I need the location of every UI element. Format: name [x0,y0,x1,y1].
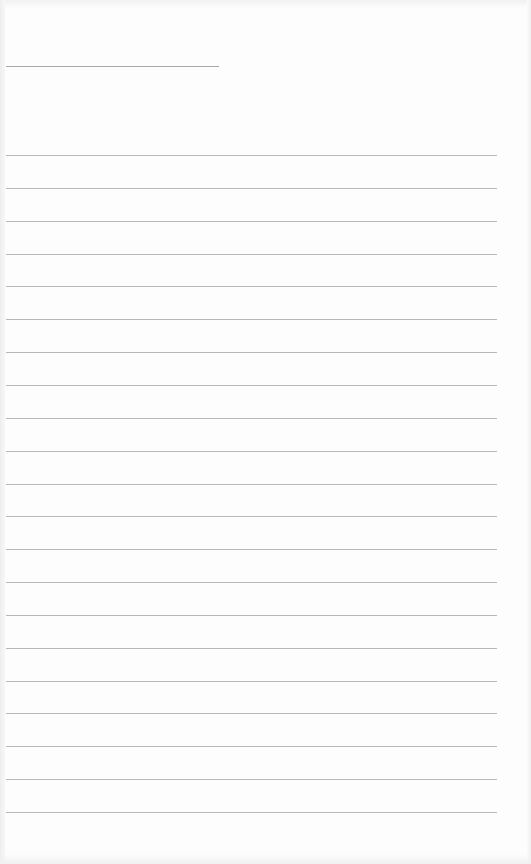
right-page-edge [527,0,531,864]
top-edge-shadow [0,0,531,8]
rule-line [6,648,497,649]
rule-line [6,352,497,353]
rule-line [6,779,497,780]
rule-line [6,254,497,255]
rule-line [6,188,497,189]
rule-line [6,713,497,714]
rule-line [6,221,497,222]
rule-line [6,812,497,813]
rule-line [6,746,497,747]
rule-line [6,549,497,550]
rule-line [6,451,497,452]
rule-line [6,582,497,583]
rule-line [6,484,497,485]
rule-line [6,418,497,419]
binding-edge [0,0,5,864]
rule-line [6,681,497,682]
rule-line [6,516,497,517]
rule-line [6,385,497,386]
rule-line [6,319,497,320]
ruled-page [0,0,531,864]
rule-line [6,615,497,616]
rule-line [6,155,497,156]
title-underline [6,66,219,67]
bottom-edge-shadow [0,854,531,864]
rule-line [6,286,497,287]
